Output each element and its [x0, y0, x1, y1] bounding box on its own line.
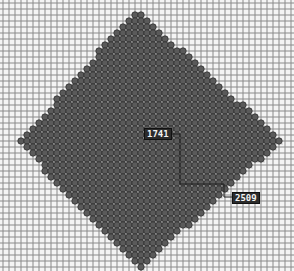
start-node-label[interactable]: 1741: [144, 128, 172, 140]
end-node-label[interactable]: 2509: [232, 192, 260, 204]
